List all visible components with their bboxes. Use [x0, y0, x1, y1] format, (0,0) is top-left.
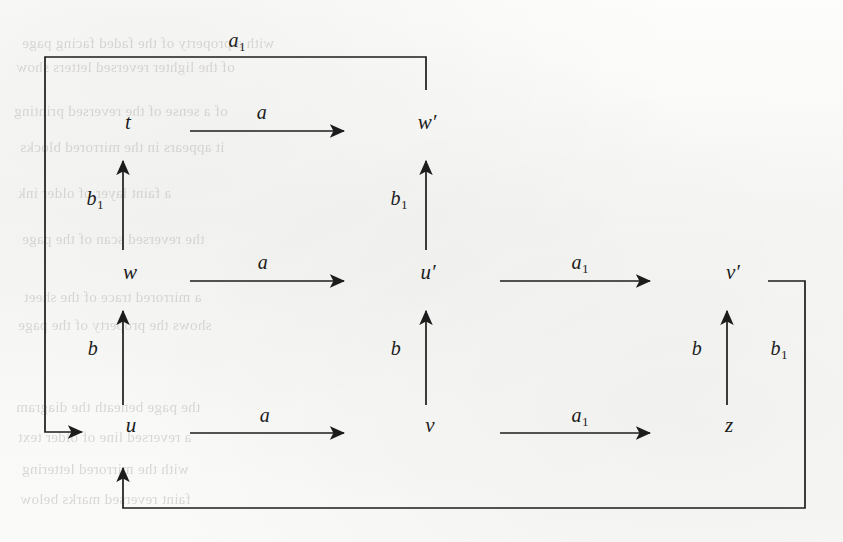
- edge-label-base: a: [571, 251, 581, 273]
- edge-label-subscript: 1: [97, 196, 104, 211]
- node-v-prime: v′: [726, 262, 740, 283]
- edge-label-base: b: [692, 337, 702, 359]
- node-u: u: [126, 415, 137, 436]
- edge-label-base: b: [86, 187, 96, 209]
- edge-label-z-to-vprime: b: [692, 338, 703, 361]
- edge-label-wprime-to-u-outer-loop: a1: [228, 30, 245, 53]
- node-t: t: [125, 112, 131, 133]
- edge-label-v-to-z: a1: [571, 405, 588, 428]
- node-w: w: [123, 262, 137, 283]
- node-v: v: [425, 415, 434, 436]
- edge-label-uprime-to-wprime: b1: [390, 188, 407, 211]
- edge-label-subscript: 1: [239, 38, 246, 53]
- edge-label-subscript: 1: [582, 413, 589, 428]
- edge-label-v-to-uprime: b: [391, 338, 402, 361]
- arrow-wprime-to-u-outer-loop: [45, 57, 426, 432]
- scanned-page: with a property of the faded facing page…: [0, 0, 843, 542]
- arrow-vprime-to-u-outer-loop: [123, 281, 805, 508]
- edge-label-vprime-to-u-outer-loop: b1: [770, 338, 787, 361]
- edge-label-base: a: [260, 404, 270, 426]
- node-u-prime: u′: [420, 262, 435, 283]
- edge-label-u-to-v: a: [260, 405, 271, 428]
- edge-label-subscript: 1: [781, 346, 788, 361]
- edge-label-w-to-t: b1: [86, 188, 103, 211]
- node-w-prime: w′: [418, 112, 437, 133]
- edge-label-base: a: [571, 404, 581, 426]
- edge-label-base: a: [257, 101, 267, 123]
- edge-label-t-to-wprime: a: [257, 102, 268, 125]
- edge-label-uprime-to-vprime: a1: [571, 252, 588, 275]
- edge-label-base: b: [391, 337, 401, 359]
- edge-label-subscript: 1: [401, 196, 408, 211]
- edge-label-u-to-w: b: [88, 338, 99, 361]
- edge-label-base: b: [390, 187, 400, 209]
- edge-label-base: b: [88, 337, 98, 359]
- commutative-diagram: t w′ w u′ v′ u v z a a a1 a a1 b1 b1 b: [0, 0, 843, 542]
- edge-label-subscript: 1: [582, 260, 589, 275]
- edge-label-w-to-uprime: a: [258, 252, 269, 275]
- node-z: z: [725, 415, 733, 436]
- edge-label-base: a: [228, 29, 238, 51]
- edge-label-base: b: [770, 337, 780, 359]
- edge-label-base: a: [258, 251, 268, 273]
